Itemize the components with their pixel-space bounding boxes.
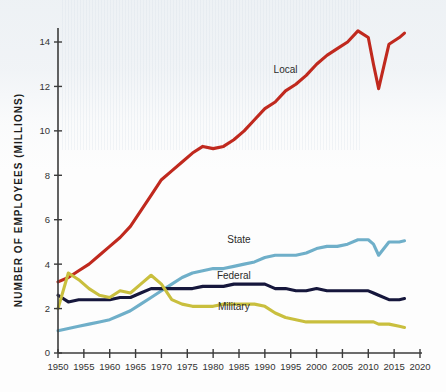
x-axis-tick-label: 1980: [203, 361, 224, 372]
series-label-federal: Federal: [217, 270, 251, 281]
chart-canvas: 0246810121419501955196019651970197519801…: [0, 0, 446, 392]
series-label-state: State: [227, 234, 251, 245]
x-axis-tick-label: 2000: [306, 361, 327, 372]
x-axis-tick-label: 1995: [280, 361, 301, 372]
series-label-local: Local: [274, 64, 298, 75]
x-axis-tick-label: 1990: [254, 361, 275, 372]
y-axis-tick-label: 14: [39, 36, 50, 47]
x-axis-tick-label: 1975: [177, 361, 198, 372]
x-axis-tick-label: 1955: [73, 361, 94, 372]
y-axis-title: NUMBER OF EMPLOYEES (MILLIONS): [13, 93, 24, 307]
x-axis-tick-label: 1985: [228, 361, 249, 372]
x-axis-tick-label: 2020: [409, 361, 430, 372]
x-axis-tick-label: 2010: [358, 361, 379, 372]
y-axis-tick-label: 6: [45, 214, 50, 225]
y-axis-tick-label: 0: [45, 347, 50, 358]
x-axis-tick-label: 2005: [332, 361, 353, 372]
x-axis-tick-label: 2015: [384, 361, 405, 372]
series-label-military: Military: [218, 301, 250, 312]
y-axis-tick-label: 12: [39, 81, 50, 92]
x-axis-tick-label: 1960: [99, 361, 120, 372]
x-axis-tick-label: 1970: [151, 361, 172, 372]
line-chart: 0246810121419501955196019651970197519801…: [0, 0, 446, 392]
series-label-group: LocalStateFederalMilitary: [217, 64, 298, 312]
x-axis-tick-label: 1950: [47, 361, 68, 372]
y-axis-tick-label: 4: [45, 259, 50, 270]
y-axis-tick-label: 8: [45, 170, 50, 181]
series-line-federal: [58, 284, 404, 302]
x-axis-tick-label: 1965: [125, 361, 146, 372]
y-axis-tick-label: 2: [45, 303, 50, 314]
y-axis-tick-label: 10: [39, 125, 50, 136]
series-group: [58, 31, 404, 331]
